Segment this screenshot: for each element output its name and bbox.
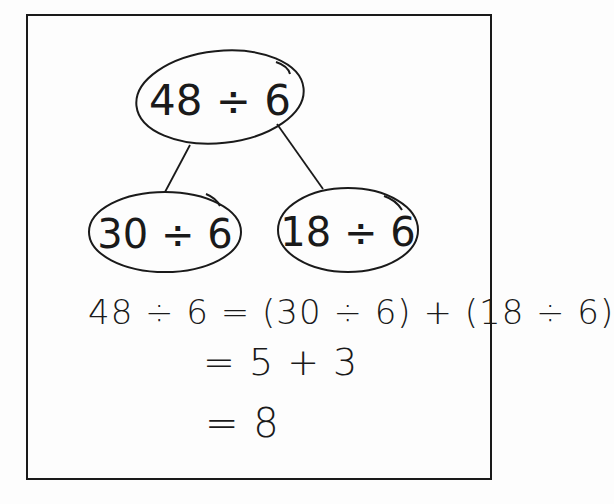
child-right-label: 18 ÷ 6 [280, 209, 415, 255]
root-node: 48 ÷ 6 [132, 42, 309, 151]
connector-left [165, 145, 190, 192]
equation-line-2: = 5 + 3 [203, 340, 358, 384]
child-left-label: 30 ÷ 6 [97, 211, 232, 257]
equation-line-3: = 8 [205, 400, 280, 446]
root-label: 48 ÷ 6 [149, 76, 291, 125]
equation-line-1: 48 ÷ 6 = (30 ÷ 6) + (18 ÷ 6) [88, 292, 614, 332]
child-node-right: 18 ÷ 6 [278, 188, 418, 272]
connector-right [277, 124, 323, 189]
child-node-left: 30 ÷ 6 [89, 192, 241, 272]
